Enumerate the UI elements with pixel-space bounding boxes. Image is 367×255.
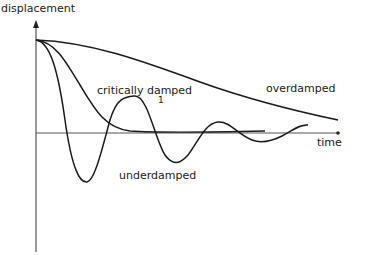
damping-diagram: displacement time overdamped critically … (0, 0, 367, 255)
overdamped-curve (36, 40, 338, 120)
critically-damped-label: critically damped (97, 84, 192, 97)
overdamped-label: overdamped (266, 82, 336, 95)
y-axis-label: displacement (1, 2, 76, 15)
x-axis-end-dot (336, 131, 340, 135)
underdamped-curve (36, 40, 308, 182)
underdamped-label: underdamped (119, 169, 196, 182)
marker-label: 1 (158, 95, 164, 105)
x-axis-label: time (317, 136, 342, 149)
y-axis-arrow-icon (33, 20, 39, 28)
